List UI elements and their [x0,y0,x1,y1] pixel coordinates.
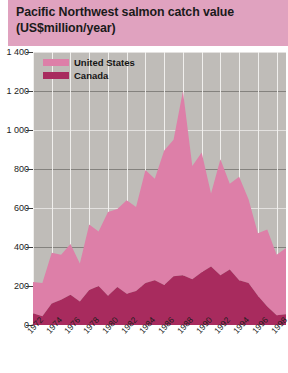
y-axis-tick-mark-400 [26,247,33,248]
chart-title-banner: Pacific Northwest salmon catch value (US… [8,0,288,46]
y-axis-tick-mark-600 [26,208,33,209]
list-item: Canada [43,70,163,81]
legend-label-united-states: United States [74,57,135,68]
y-axis-tick-mark-1000 [26,130,33,131]
legend-swatch-united-states [43,59,69,66]
x-axis: 1972197419761978198019821984198619881990… [0,325,288,373]
stacked-area-series [33,52,286,325]
chart-title-line-2: (US$million/year) [16,20,288,36]
legend-swatch-canada [43,72,69,79]
area-united-states [33,91,286,316]
y-axis-tick-mark-1200 [26,91,33,92]
legend-label-canada: Canada [74,70,108,81]
y-axis-tick-mark-200 [26,286,33,287]
chart-title-line-1: Pacific Northwest salmon catch value [16,4,288,20]
chart-plot-area [33,52,286,325]
y-axis: 02004006008001 0001 2001 400 [0,0,33,373]
y-axis-tick-mark-800 [26,169,33,170]
chart-legend: United States Canada [43,57,163,83]
y-axis-tick-mark-1400 [26,52,33,53]
list-item: United States [43,57,163,68]
